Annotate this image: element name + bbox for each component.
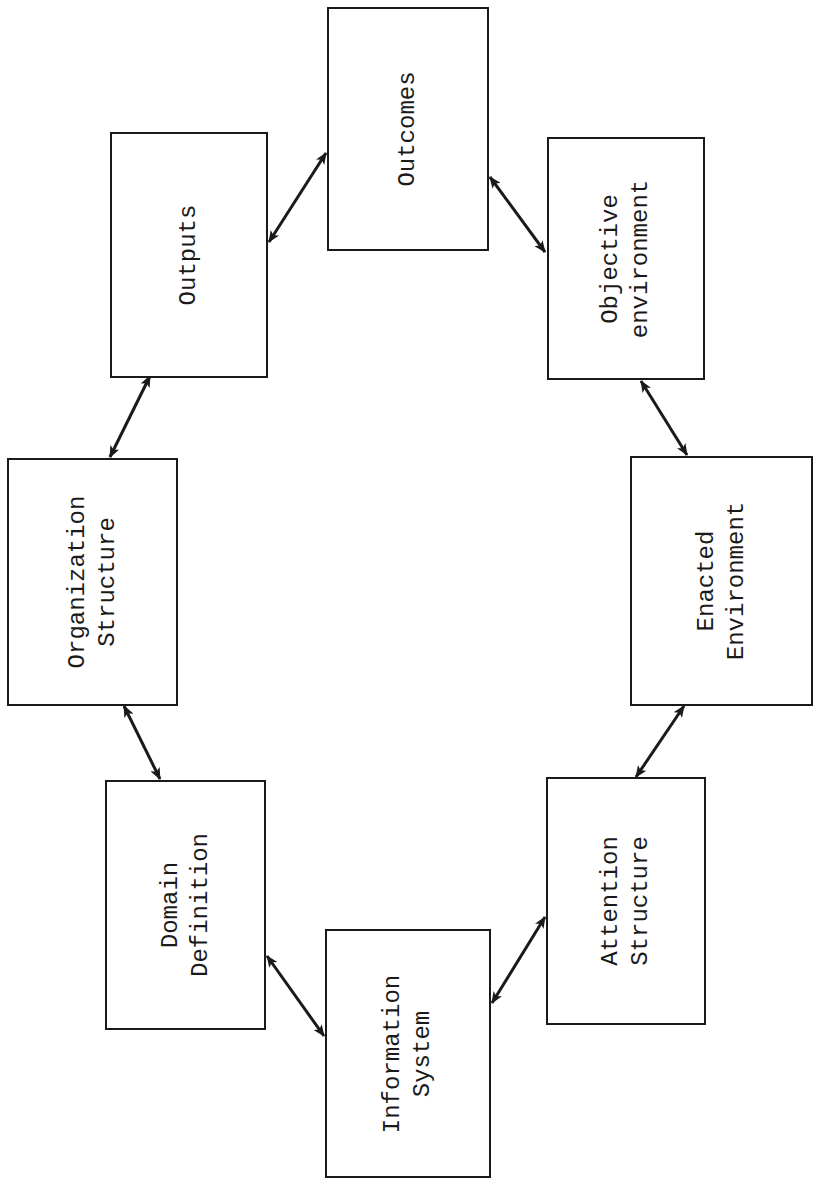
label-line: environment — [626, 179, 656, 337]
box-organization-structure: Organization Structure — [7, 458, 178, 706]
arrow-domain-organization — [124, 706, 160, 779]
box-label: Organization Structure — [63, 496, 123, 669]
label-line: Definition — [186, 833, 216, 977]
label-line: Organization — [63, 496, 93, 669]
label-line: Objective — [596, 179, 626, 337]
box-label: Attention Structure — [596, 836, 656, 966]
box-enacted-environment: Enacted Environment — [630, 456, 813, 706]
label-line: Information — [378, 974, 408, 1132]
arrow-outputs-outcomes — [269, 153, 326, 242]
arrow-information-domain — [267, 956, 324, 1036]
arrow-attention-information — [492, 917, 545, 1003]
label-line: Structure — [626, 836, 656, 966]
box-label: Objective environment — [596, 179, 656, 337]
box-label: Information System — [378, 974, 438, 1132]
label-line: Domain — [156, 833, 186, 977]
label-line: Environment — [722, 502, 752, 660]
label-line: System — [408, 974, 438, 1132]
box-information-system: Information System — [325, 929, 491, 1178]
box-outcomes: Outcomes — [327, 7, 489, 251]
arrow-objective-enacted — [641, 381, 687, 455]
label-line: Outcomes — [393, 71, 423, 186]
box-attention-structure: Attention Structure — [546, 777, 706, 1025]
box-label: Outcomes — [393, 71, 423, 186]
box-domain-definition: Domain Definition — [105, 780, 266, 1030]
box-label: Outputs — [174, 205, 204, 306]
label-line: Enacted — [692, 502, 722, 660]
cycle-diagram: Outcomes Outputs Objective environment O… — [0, 0, 821, 1192]
box-label: Enacted Environment — [692, 502, 752, 660]
label-line: Outputs — [174, 205, 204, 306]
arrow-enacted-attention — [636, 706, 684, 777]
box-label: Domain Definition — [156, 833, 216, 977]
box-objective-environment: Objective environment — [547, 137, 705, 380]
arrow-outcomes-objective — [490, 177, 545, 252]
label-line: Attention — [596, 836, 626, 966]
label-line: Structure — [93, 496, 123, 669]
box-outputs: Outputs — [110, 132, 268, 378]
arrow-organization-outputs — [110, 376, 150, 457]
